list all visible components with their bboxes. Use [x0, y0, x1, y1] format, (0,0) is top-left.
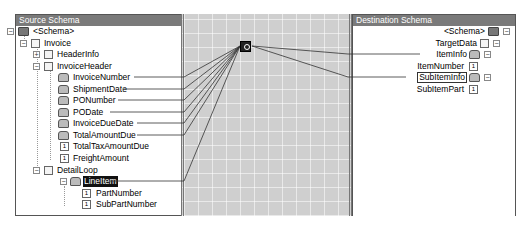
record-icon — [70, 177, 81, 186]
field-icon: 1 — [60, 154, 69, 163]
record-icon — [58, 108, 69, 117]
collapse-icon[interactable]: − — [503, 28, 510, 35]
destination-schema-header: Destination Schema — [353, 15, 515, 26]
record-icon — [469, 73, 480, 82]
document-icon — [480, 39, 489, 48]
field-icon: 1 — [82, 200, 91, 209]
source-node-shipmentdate[interactable]: ShipmentDate — [58, 84, 138, 95]
source-node-partnumber[interactable]: 1 PartNumber — [82, 188, 172, 199]
document-icon — [44, 62, 53, 71]
source-node-invoiceheader[interactable]: − InvoiceHeader — [33, 61, 153, 72]
collapse-icon[interactable]: − — [493, 40, 500, 47]
folder-icon — [18, 27, 29, 36]
source-node-invoiceduedate[interactable]: InvoiceDueDate — [58, 118, 138, 129]
field-icon: 1 — [469, 85, 478, 94]
source-node-podate[interactable]: PODate — [58, 107, 138, 118]
document-icon — [44, 166, 53, 175]
record-icon — [58, 85, 69, 94]
source-node-schema[interactable]: − <Schema> — [7, 26, 127, 37]
record-icon — [58, 131, 69, 140]
source-node-ponumber[interactable]: PONumber — [58, 95, 138, 106]
source-node-headerinfo[interactable]: + HeaderInfo — [33, 49, 153, 60]
source-node-totaltaxamountdue[interactable]: 1 TotalTaxAmountDue — [60, 141, 160, 152]
record-icon — [469, 50, 480, 59]
field-icon: 1 — [469, 62, 478, 71]
source-node-subpartnumber[interactable]: 1 SubPartNumber — [82, 199, 172, 210]
collapse-icon[interactable]: − — [20, 40, 27, 47]
record-icon — [58, 119, 69, 128]
mapping-grid[interactable] — [181, 14, 352, 216]
source-node-totalamountdue[interactable]: TotalAmountDue — [58, 130, 138, 141]
collapse-icon[interactable]: − — [484, 51, 491, 58]
tree-line — [50, 70, 51, 160]
dest-node-itemnumber[interactable]: ItemNumber 1 — [400, 61, 478, 72]
field-icon: 1 — [82, 189, 91, 198]
dest-node-subitempart[interactable]: SubItemPart 1 — [390, 84, 478, 95]
field-icon: 1 — [60, 142, 69, 151]
dest-node-iteminfo[interactable]: ItemInfo − — [410, 49, 491, 60]
document-icon — [31, 39, 40, 48]
collapse-icon[interactable]: − — [33, 167, 40, 174]
collapse-icon[interactable]: − — [484, 74, 491, 81]
source-node-invoice[interactable]: − Invoice — [20, 38, 140, 49]
document-icon — [44, 50, 53, 59]
source-schema-header: Source Schema — [16, 15, 182, 26]
source-node-freightamount[interactable]: 1 FreightAmount — [60, 153, 160, 164]
dest-node-schema[interactable]: <Schema> − — [420, 26, 510, 37]
expand-icon[interactable]: + — [33, 51, 40, 58]
collapse-icon[interactable]: − — [7, 28, 14, 35]
tree-line — [64, 186, 65, 206]
collapse-icon[interactable]: − — [33, 63, 40, 70]
record-icon — [58, 73, 69, 82]
collapse-icon[interactable]: − — [60, 178, 67, 185]
dest-node-subiteminfo[interactable]: SubItemInfo − — [400, 72, 491, 83]
source-node-invoicenumber[interactable]: InvoiceNumber — [58, 72, 138, 83]
source-node-detailloop[interactable]: − DetailLoop — [33, 165, 133, 176]
looping-functoid-icon[interactable] — [240, 41, 251, 52]
folder-icon — [488, 27, 499, 36]
record-icon — [58, 96, 69, 105]
source-node-lineitem[interactable]: − LineItem — [60, 176, 120, 187]
dest-node-targetdata[interactable]: TargetData − — [420, 38, 500, 49]
